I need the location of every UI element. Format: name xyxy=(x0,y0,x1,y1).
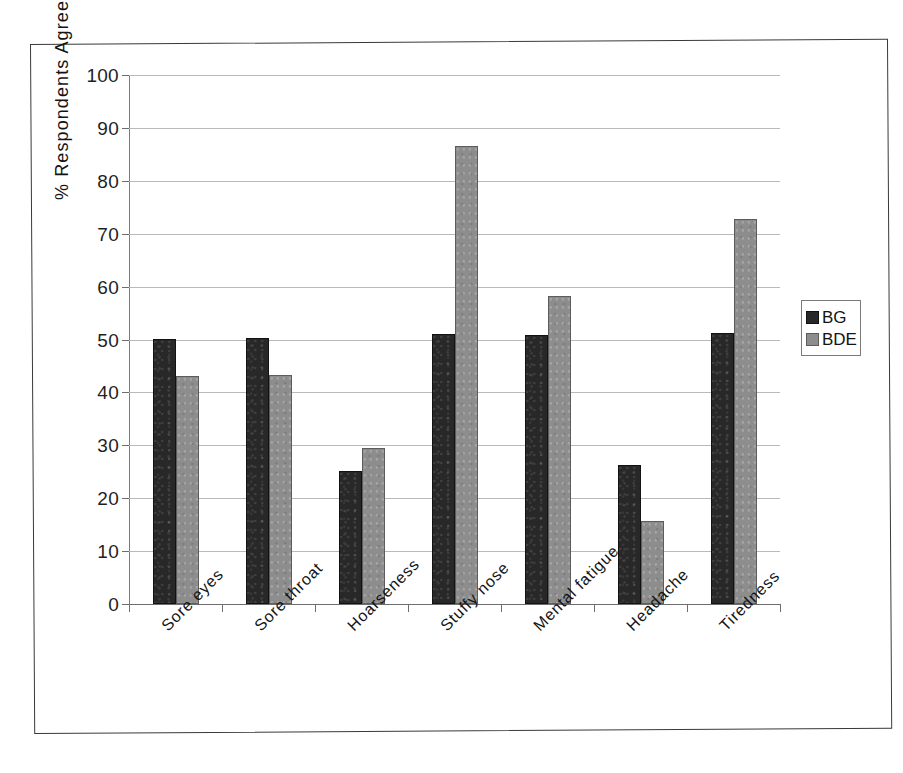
y-tick-label: 0 xyxy=(108,594,119,616)
bar-bg-sore-eyes xyxy=(153,339,176,604)
y-tick-label: 10 xyxy=(97,541,119,563)
bar-bg-sore-throat xyxy=(246,338,269,604)
y-tick-mark xyxy=(122,551,129,552)
legend-item-bde: BDE xyxy=(806,328,860,350)
y-tick-label: 30 xyxy=(97,435,119,457)
x-tick-mark xyxy=(501,604,502,612)
legend-label-bde: BDE xyxy=(822,331,857,348)
gridline-90 xyxy=(129,128,780,129)
y-tick-label: 20 xyxy=(97,488,119,510)
chart-legend: BG BDE xyxy=(801,300,861,356)
bar-bg-mental-fatigue xyxy=(525,335,548,604)
y-tick-mark xyxy=(122,340,129,341)
legend-label-bg: BG xyxy=(822,309,847,326)
bar-bde-stuffy-nose xyxy=(455,146,478,604)
x-tick-mark xyxy=(408,604,409,612)
legend-item-bg: BG xyxy=(806,306,860,328)
gridline-100 xyxy=(129,75,780,76)
y-tick-mark xyxy=(122,75,129,76)
x-tick-mark xyxy=(594,604,595,612)
y-tick-mark xyxy=(122,181,129,182)
bar-bg-hoarseness xyxy=(339,471,362,604)
bar-bde-sore-eyes xyxy=(176,376,199,604)
plot-area xyxy=(129,75,780,604)
grouped-bar-chart: % Respondents Agreeing 01020304050607080… xyxy=(0,0,903,773)
x-tick-mark xyxy=(687,604,688,612)
y-tick-mark xyxy=(122,392,129,393)
y-tick-label: 60 xyxy=(97,277,119,299)
dark-square-swatch-icon xyxy=(806,311,819,324)
gray-square-swatch-icon xyxy=(806,333,819,346)
y-axis-title: % Respondents Agreeing xyxy=(52,0,73,200)
bar-bg-tiredness xyxy=(711,333,734,604)
x-tick-mark xyxy=(780,604,781,612)
y-tick-mark xyxy=(122,128,129,129)
y-tick-mark xyxy=(122,445,129,446)
y-tick-label: 90 xyxy=(97,118,119,140)
y-tick-label: 70 xyxy=(97,224,119,246)
y-tick-label: 100 xyxy=(86,65,119,87)
x-tick-mark xyxy=(129,604,130,612)
bar-bg-headache xyxy=(618,465,641,604)
y-tick-label: 40 xyxy=(97,382,119,404)
x-tick-mark xyxy=(315,604,316,612)
y-tick-mark xyxy=(122,287,129,288)
y-tick-label: 80 xyxy=(97,171,119,193)
y-tick-label: 50 xyxy=(97,330,119,352)
y-tick-mark xyxy=(122,234,129,235)
bar-bg-stuffy-nose xyxy=(432,334,455,604)
y-tick-mark xyxy=(122,498,129,499)
bar-bde-tiredness xyxy=(734,219,757,604)
bar-bde-mental-fatigue xyxy=(548,296,571,604)
bar-bde-hoarseness xyxy=(362,448,385,604)
x-tick-mark xyxy=(222,604,223,612)
y-tick-mark xyxy=(122,604,129,605)
bar-bde-sore-throat xyxy=(269,375,292,604)
